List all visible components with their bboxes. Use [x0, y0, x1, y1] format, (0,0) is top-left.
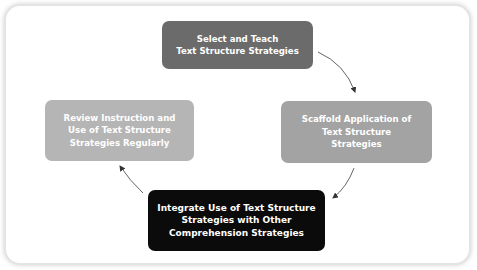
step-review-instruction: Review Instruction and Use of Text Struc…	[45, 100, 194, 161]
step-scaffold-application: Scaffold Application of Text Structure S…	[281, 101, 432, 163]
step-select-and-teach: Select and Teach Text Structure Strategi…	[162, 21, 313, 69]
step-integrate-use: Integrate Use of Text Structure Strategi…	[148, 190, 325, 251]
